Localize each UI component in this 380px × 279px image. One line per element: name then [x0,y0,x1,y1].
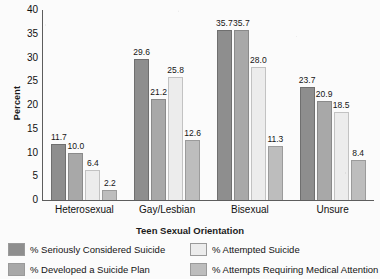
bar: 10.0 [68,153,83,201]
legend-label: % Seriously Considered Suicide [30,244,165,255]
y-tick-label: 15 [14,124,38,134]
y-tick-label: 35 [14,29,38,39]
y-tick-label: 25 [14,76,38,86]
bar-value-label: 35.7 [233,19,250,28]
legend-label: % Attempted Suicide [212,244,300,255]
legend-item: % Developed a Suicide Plan [8,263,190,276]
legend-item: % Seriously Considered Suicide [8,243,190,256]
bar-value-label: 28.0 [250,56,267,65]
bar: 35.7 [217,30,232,200]
bar-value-label: 21.2 [150,88,167,97]
bar: 2.2 [102,190,117,200]
bar: 18.5 [334,112,349,200]
bar: 25.8 [168,77,183,200]
x-tick-label: Gay/Lesbian [126,204,209,215]
y-tick-label: 40 [14,5,38,15]
chart-legend: % Seriously Considered Suicide% Attempte… [8,239,376,279]
bar-value-label: 2.2 [104,179,116,188]
bar: 29.6 [134,59,149,200]
bar: 11.7 [51,144,66,200]
bar-value-label: 10.0 [68,142,85,151]
bar-group: 23.720.918.58.4 [291,10,374,200]
y-tick-label: 20 [14,100,38,110]
bar-group: 35.735.728.011.3 [209,10,292,200]
y-tick-label: 5 [14,171,38,181]
bar: 21.2 [151,99,166,200]
legend-swatch [8,243,25,256]
plot-area: Percent 4035302520151050 11.710.06.42.22… [0,4,380,210]
x-tick-label: Unsure [291,204,374,215]
legend-swatch [190,263,207,276]
y-tick-label: 30 [14,53,38,63]
bar-value-label: 29.6 [133,48,150,57]
legend-swatch [190,243,207,256]
bar-chart: Percent 4035302520151050 11.710.06.42.22… [0,0,380,279]
bar-value-label: 20.9 [316,90,333,99]
bar-value-label: 11.7 [51,133,67,142]
legend-label: % Attempts Requiring Medical Attention [212,264,378,275]
bar-value-label: 12.6 [184,129,201,138]
bar-value-label: 6.4 [87,159,99,168]
x-tick-label: Bisexual [209,204,292,215]
bar: 20.9 [317,101,332,200]
legend-item: % Attempted Suicide [190,243,376,256]
bar: 23.7 [300,87,315,200]
bar-value-label: 18.5 [333,101,350,110]
bar-value-label: 25.8 [167,66,184,75]
bar: 8.4 [351,160,366,200]
x-axis-title: Teen Sexual Orientation [0,225,380,236]
bar-value-label: 23.7 [299,76,316,85]
bar: 12.6 [185,140,200,200]
bar-group: 29.621.225.812.6 [126,10,209,200]
bar: 28.0 [251,67,266,200]
x-tick-label: Heterosexual [43,204,126,215]
bar: 11.3 [268,146,283,200]
legend-swatch [8,263,25,276]
bar-value-label: 35.7 [216,19,233,28]
legend-label: % Developed a Suicide Plan [30,264,150,275]
bar: 35.7 [234,30,249,200]
bar-value-label: 8.4 [352,149,364,158]
legend-item: % Attempts Requiring Medical Attention [190,263,376,276]
bar-groups: 11.710.06.42.229.621.225.812.635.735.728… [43,10,374,200]
y-tick-label: 0 [14,195,38,205]
bar: 6.4 [85,170,100,200]
y-tick-label: 10 [14,148,38,158]
bar-group: 11.710.06.42.2 [43,10,126,200]
x-axis-line [42,200,374,201]
bar-value-label: 11.3 [267,135,283,144]
